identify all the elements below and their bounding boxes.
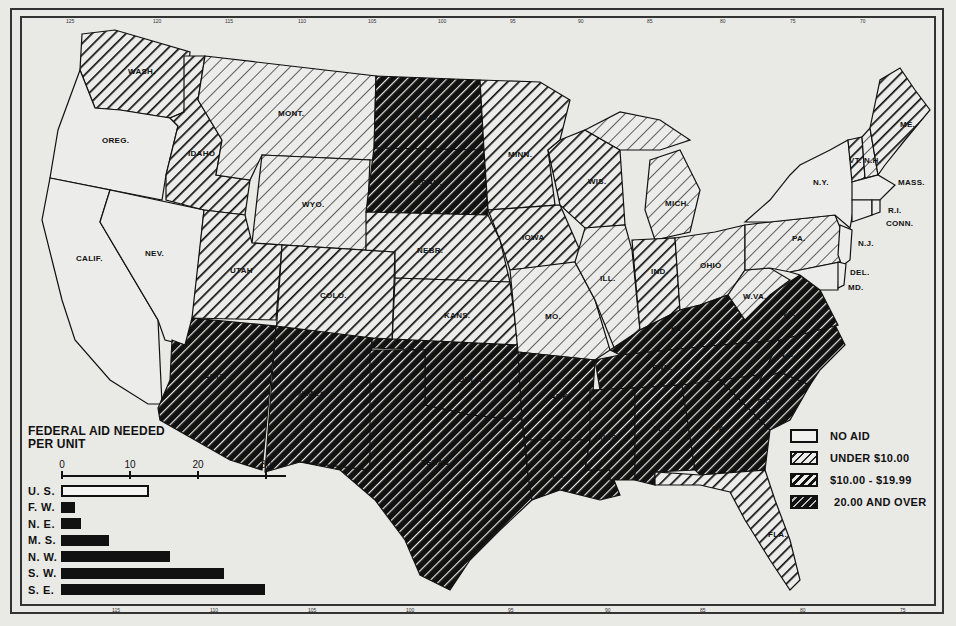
svg-text:75: 75 (900, 607, 906, 613)
svg-text:115: 115 (225, 18, 233, 24)
chart-title: FEDERAL AID NEEDED PER UNIT (28, 425, 165, 451)
bar-label: N. E. (28, 518, 61, 530)
bar (61, 551, 170, 562)
swatch-no-aid (790, 429, 818, 443)
bar-row: S. W. (28, 567, 224, 580)
bar-row: S. E. (28, 583, 265, 596)
svg-text:ALA.: ALA. (652, 424, 672, 433)
axis-tick-label: 20 (192, 459, 203, 470)
legend-item-10-to-19: $10.00 - $19.99 (790, 470, 940, 490)
svg-text:85: 85 (700, 607, 706, 613)
svg-text:90: 90 (605, 607, 611, 613)
svg-text:105: 105 (368, 18, 377, 24)
legend-label: $10.00 - $19.99 (830, 474, 912, 486)
legend-label: 20.00 AND OVER (834, 496, 926, 508)
svg-text:GA.: GA. (712, 424, 727, 433)
legend-label: UNDER $10.00 (830, 452, 909, 464)
chart-title-line2: PER UNIT (28, 438, 165, 451)
svg-text:R.I.: R.I. (888, 206, 902, 215)
svg-text:85: 85 (647, 18, 653, 24)
map-legend: NO AID UNDER $10.00 $10.00 - $19.99 20.0… (790, 426, 940, 514)
svg-text:100: 100 (406, 607, 415, 613)
svg-text:MINN.: MINN. (508, 150, 532, 159)
bar (61, 502, 75, 513)
svg-text:MISS.: MISS. (596, 433, 619, 442)
svg-text:S.DAK.: S.DAK. (413, 178, 442, 187)
svg-text:OREG.: OREG. (102, 136, 129, 145)
svg-text:95: 95 (510, 18, 516, 24)
legend-item-no-aid: NO AID (790, 426, 940, 446)
svg-text:PA.: PA. (792, 234, 806, 243)
svg-text:MICH.: MICH. (665, 199, 689, 208)
swatch-under-10 (790, 451, 818, 465)
state-ri[interactable] (872, 200, 880, 215)
bar-label: M. S. (28, 534, 61, 546)
state-ny[interactable] (745, 140, 855, 228)
bar-row: U. S. (28, 484, 149, 497)
svg-text:OHIO: OHIO (700, 261, 722, 270)
bar (61, 485, 149, 497)
svg-text:N.DAK.: N.DAK. (413, 113, 442, 122)
svg-text:ARIZ.: ARIZ. (204, 372, 226, 381)
svg-text:KANS.: KANS. (444, 311, 470, 320)
bar-label: U. S. (28, 485, 61, 497)
svg-text:KY.: KY. (671, 324, 684, 333)
svg-text:WYO.: WYO. (302, 200, 325, 209)
svg-text:VA.: VA. (782, 309, 796, 318)
svg-text:95: 95 (508, 607, 514, 613)
svg-text:ARK.: ARK. (550, 392, 571, 401)
svg-text:ILL.: ILL. (600, 274, 615, 283)
svg-text:COLO.: COLO. (320, 291, 347, 300)
svg-text:IOWA: IOWA (522, 233, 545, 242)
svg-text:N.MEX.: N.MEX. (298, 389, 327, 398)
bar (61, 535, 109, 546)
bar-row: N. E. (28, 517, 81, 530)
axis-line (61, 475, 286, 477)
svg-text:80: 80 (720, 18, 726, 24)
svg-text:TEXAS: TEXAS (421, 458, 450, 467)
svg-text:MO.: MO. (545, 312, 561, 321)
svg-text:FLA.: FLA. (768, 530, 787, 539)
svg-text:115: 115 (112, 607, 120, 613)
svg-text:N.J.: N.J. (858, 239, 874, 248)
legend-label: NO AID (830, 430, 870, 442)
svg-text:IDAHO: IDAHO (188, 149, 215, 158)
svg-text:NEBR.: NEBR. (417, 246, 443, 255)
svg-text:TENN.: TENN. (647, 363, 673, 372)
bar-label: N. W. (28, 551, 61, 563)
svg-text:DEL.: DEL. (850, 268, 869, 277)
state-del[interactable] (838, 262, 846, 288)
svg-text:CONN.: CONN. (886, 219, 913, 228)
bar-row: N. W. (28, 550, 170, 563)
svg-text:W.VA.: W.VA. (743, 292, 767, 301)
svg-text:S.C.: S.C. (757, 397, 774, 406)
bar (61, 568, 224, 579)
federal-aid-bar-chart: FEDERAL AID NEEDED PER UNIT 0102030 U. S… (28, 425, 318, 595)
svg-text:110: 110 (210, 607, 218, 613)
svg-text:OKLA.: OKLA. (458, 375, 484, 384)
svg-text:110: 110 (298, 18, 306, 24)
svg-text:105: 105 (308, 607, 317, 613)
bar-row: M. S. (28, 534, 109, 547)
svg-text:UTAH: UTAH (230, 266, 253, 275)
svg-text:120: 120 (153, 18, 162, 24)
bar-label: S. W. (28, 567, 61, 579)
state-conn[interactable] (852, 200, 872, 222)
axis-tick-label: 0 (59, 459, 65, 470)
svg-text:WIS.: WIS. (588, 177, 607, 186)
svg-text:WASH.: WASH. (128, 67, 156, 76)
svg-text:75: 75 (790, 18, 796, 24)
axis-tick (197, 471, 199, 479)
legend-item-20-and-over: 20.00 AND OVER (790, 492, 940, 512)
state-nj[interactable] (838, 225, 852, 266)
svg-text:VT.: VT. (849, 156, 861, 165)
bar-label: F. W. (28, 501, 61, 513)
legend-item-under-10: UNDER $10.00 (790, 448, 940, 468)
svg-text:MASS.: MASS. (898, 178, 925, 187)
svg-text:ME.: ME. (900, 120, 915, 129)
state-mich[interactable] (645, 150, 700, 240)
swatch-20-and-over (790, 495, 818, 509)
svg-text:80: 80 (800, 607, 806, 613)
axis-tick (129, 471, 131, 479)
swatch-10-to-19 (790, 473, 818, 487)
